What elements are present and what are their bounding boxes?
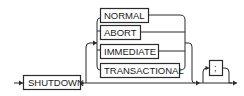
terminator-branch-line (203, 68, 209, 83)
syntax-diagram: SHUTDOWN NORMAL ABORT IMMEDIATE TRANSACT… (0, 0, 244, 96)
keyword-shutdown-label: SHUTDOWN (28, 77, 84, 88)
option-abort-label: ABORT (104, 27, 137, 38)
option-abort: ABORT (101, 26, 186, 40)
options-return-line (185, 43, 195, 83)
merge-arrow-icon (196, 81, 200, 86)
terminator-arrow-icon (206, 66, 210, 70)
option-transactional-label: TRANSACTIONAL (104, 65, 184, 76)
option-immediate-label: IMMEDIATE (104, 46, 156, 57)
option-normal: NORMAL (101, 9, 186, 23)
keyword-shutdown: SHUTDOWN (24, 76, 85, 90)
options-branch-line (86, 43, 97, 83)
entry-arrow-icon (19, 81, 23, 86)
exit-arrow-icon (233, 81, 237, 86)
terminator-semicolon-label: ; (214, 62, 217, 73)
terminator-return-line (223, 68, 229, 83)
options-left-rail (97, 18, 100, 70)
terminator-semicolon: ; (210, 61, 223, 76)
option-normal-label: NORMAL (104, 10, 145, 21)
option-transactional: TRANSACTIONAL (101, 64, 186, 78)
options-branch-arrow-icon (93, 41, 97, 46)
option-immediate: IMMEDIATE (101, 45, 186, 59)
